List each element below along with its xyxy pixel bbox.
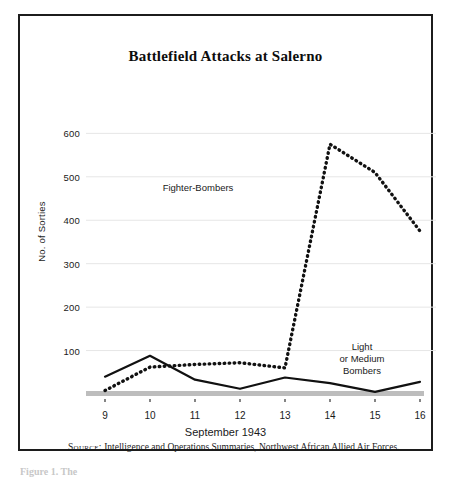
source-note: Source: Intelligence and Operations Summ… bbox=[68, 442, 411, 452]
source-label: Source: bbox=[68, 442, 102, 452]
x-tick-label-15: 15 bbox=[360, 410, 390, 421]
chart-title: Battlefield Attacks at Salerno bbox=[20, 48, 431, 65]
figure-caption: Figure 1. The bbox=[20, 466, 170, 478]
source-text: Intelligence and Operations Summaries, N… bbox=[104, 442, 399, 452]
y-tick-label-500: 500 bbox=[46, 171, 80, 182]
y-axis-title: No. of Sorties bbox=[36, 187, 47, 277]
figure-frame: Battlefield Attacks at Salerno 100200300… bbox=[18, 14, 433, 451]
y-tick-label-600: 600 bbox=[46, 128, 80, 139]
x-tick-label-9: 9 bbox=[90, 410, 120, 421]
x-axis-tick-marks bbox=[105, 399, 420, 402]
x-axis-title: September 1943 bbox=[20, 426, 431, 438]
gridlines bbox=[86, 133, 436, 350]
series-label-line-1: Light bbox=[320, 341, 404, 353]
x-tick-label-12: 12 bbox=[225, 410, 255, 421]
y-tick-label-400: 400 bbox=[46, 215, 80, 226]
x-tick-label-13: 13 bbox=[270, 410, 300, 421]
x-tick-label-11: 11 bbox=[180, 410, 210, 421]
series-label-light-or-medium-bombers: Light or Medium Bombers bbox=[320, 341, 404, 377]
series-label-fighter-bombers: Fighter-Bombers bbox=[138, 182, 258, 194]
x-tick-label-16: 16 bbox=[405, 410, 435, 421]
x-tick-label-10: 10 bbox=[135, 410, 165, 421]
y-tick-label-300: 300 bbox=[46, 258, 80, 269]
y-axis-tick-labels: 100200300400500600 bbox=[46, 102, 80, 402]
series-label-line-2: or Medium bbox=[320, 353, 404, 365]
x-axis-tick-labels: 910111213141516 bbox=[86, 410, 436, 426]
y-tick-label-100: 100 bbox=[46, 345, 80, 356]
x-tick-label-14: 14 bbox=[315, 410, 345, 421]
y-tick-label-200: 200 bbox=[46, 302, 80, 313]
series-label-line-3: Bombers bbox=[320, 365, 404, 377]
